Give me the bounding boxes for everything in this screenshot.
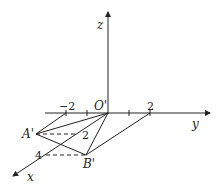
- edge-A-to-O: [36, 113, 108, 134]
- y-tick-label-2: 2: [147, 100, 154, 113]
- x-tick-label-4: 4: [35, 149, 42, 162]
- x-axis-label: x: [27, 170, 34, 184]
- x-tick-label-2: 2: [82, 129, 89, 142]
- edge-neg2-to-A: [36, 113, 66, 134]
- y-axis-label: y: [191, 117, 199, 131]
- diagram-canvas: z y x O' A' B' −2 2 2 4: [0, 0, 219, 187]
- point-A-label: A': [21, 127, 34, 141]
- point-B-label: B': [82, 157, 95, 171]
- z-axis-label: z: [96, 18, 104, 32]
- y-tick-label-neg2: −2: [59, 100, 75, 113]
- edge-O-to-B: [86, 113, 108, 155]
- edge-B-to-y2: [86, 113, 150, 155]
- diagram-figure: z y x O' A' B' −2 2 2 4: [0, 0, 219, 187]
- edge-A-to-B: [36, 134, 86, 155]
- origin-label: O': [94, 99, 107, 113]
